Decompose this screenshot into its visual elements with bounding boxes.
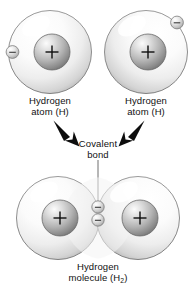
left-atom-caption-line2: atom (H) bbox=[6, 106, 94, 117]
hydrogen-covalent-bond-diagram: Hydrogen atom (H) Hydrogen atom (H) Cova… bbox=[0, 0, 196, 289]
covalent-bond-label: Covalent bond bbox=[56, 138, 140, 160]
right-atom-caption-line1: Hydrogen bbox=[102, 95, 190, 106]
right-hydrogen-atom bbox=[105, 11, 188, 94]
left-atom-caption-line1: Hydrogen bbox=[6, 95, 94, 106]
molecule-formula-subscript: 2 bbox=[120, 277, 124, 284]
hydrogen-molecule bbox=[17, 177, 180, 260]
covalent-bond-label-line2: bond bbox=[56, 149, 140, 160]
right-atom-caption: Hydrogen atom (H) bbox=[102, 95, 190, 117]
molecule-caption: Hydrogen molecule (H2) bbox=[36, 261, 160, 284]
molecule-caption-line2: molecule (H2) bbox=[36, 272, 160, 284]
left-hydrogen-atom bbox=[6, 11, 91, 94]
molecule-formula-pre: molecule (H bbox=[69, 272, 121, 283]
left-atom-caption: Hydrogen atom (H) bbox=[6, 95, 94, 117]
molecule-formula-post: ) bbox=[124, 272, 127, 283]
right-atom-caption-line2: atom (H) bbox=[102, 106, 190, 117]
covalent-bond-label-line1: Covalent bbox=[56, 138, 140, 149]
molecule-caption-line1: Hydrogen bbox=[36, 261, 160, 272]
